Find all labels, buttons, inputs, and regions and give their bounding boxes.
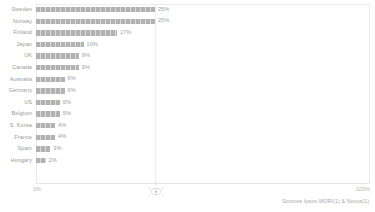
bar-fill	[36, 65, 79, 70]
bar-rows-container: Sweden25%Norway25%Finland17%Japan10%UK9%…	[0, 4, 375, 180]
bar-row-label: US	[0, 100, 36, 106]
bar-track: 10%	[36, 39, 155, 51]
bar-track: 4%	[36, 132, 155, 144]
bar-row-label: Spain	[0, 146, 36, 152]
bar-track: 17%	[36, 27, 155, 39]
bar-value-label: 2%	[46, 158, 57, 164]
bar-row: Hungary2%	[0, 155, 375, 167]
bar-track: 6%	[36, 85, 155, 97]
bar-row-label: France	[0, 135, 36, 141]
bar-value-label: 6%	[65, 88, 76, 94]
bar-row: Sweden25%	[0, 4, 375, 16]
bar-value-label: 9%	[79, 53, 90, 59]
bar-row: Japan10%	[0, 39, 375, 51]
bar-fill	[36, 135, 55, 140]
bar-fill	[36, 88, 65, 93]
bar-fill	[36, 158, 46, 163]
bar-value-label: 5%	[60, 100, 71, 106]
bar-row: UK9%	[0, 50, 375, 62]
bar-row: France4%	[0, 132, 375, 144]
bar-track: 25%	[36, 4, 155, 16]
bar-row: Finland17%	[0, 27, 375, 39]
bar-track: 5%	[36, 97, 155, 109]
bar-row-label: Germany	[0, 88, 36, 94]
bar-row-label: Japan	[0, 42, 36, 48]
bar-row-label: Canada	[0, 65, 36, 71]
bar-value-label: 25%	[155, 19, 169, 25]
bar-row: Australia6%	[0, 74, 375, 86]
bar-fill	[36, 146, 50, 151]
bar-fill	[36, 100, 60, 105]
bar-row: US5%	[0, 97, 375, 109]
bar-chart-widget: Sweden25%Norway25%Finland17%Japan10%UK9%…	[0, 0, 375, 212]
bar-row: Canada9%	[0, 62, 375, 74]
bar-track: 3%	[36, 143, 155, 155]
axis-tick-left: 0%	[33, 187, 41, 193]
bar-row-label: S. Korea	[0, 123, 36, 129]
bar-track: 5%	[36, 108, 155, 120]
bar-fill	[36, 19, 155, 24]
bar-value-label: 6%	[65, 77, 76, 83]
bar-value-label: 17%	[117, 30, 131, 36]
bar-row-label: Finland	[0, 30, 36, 36]
bar-fill	[36, 42, 84, 47]
bar-value-label: 9%	[79, 65, 90, 71]
bar-fill	[36, 7, 155, 12]
bar-track: 6%	[36, 74, 155, 86]
bar-row: Spain3%	[0, 143, 375, 155]
bar-row-label: Australia	[0, 77, 36, 83]
axis-tick-right: 100%	[356, 187, 370, 193]
bar-fill	[36, 123, 55, 128]
bar-row-label: UK	[0, 53, 36, 59]
bar-fill	[36, 53, 79, 58]
bar-fill	[36, 77, 65, 82]
bar-row: Germany6%	[0, 85, 375, 97]
bar-track: 4%	[36, 120, 155, 132]
bar-row-label: Belgium	[0, 111, 36, 117]
bar-track: 9%	[36, 62, 155, 74]
bar-track: 2%	[36, 155, 155, 167]
bar-value-label: 25%	[155, 7, 169, 13]
bar-value-label: 3%	[50, 146, 61, 152]
bar-value-label: 4%	[55, 123, 66, 129]
axis-slider-handle-icon[interactable]	[147, 182, 165, 196]
bar-fill	[36, 111, 60, 116]
bar-track: 25%	[36, 16, 155, 28]
bar-value-label: 10%	[84, 42, 98, 48]
bar-row-label: Norway	[0, 19, 36, 25]
bar-track: 9%	[36, 50, 155, 62]
bar-row: Belgium5%	[0, 108, 375, 120]
bar-row-label: Hungary	[0, 158, 36, 164]
source-note: Sources Ipsos-MORI(1) & Novus(1)	[282, 199, 369, 204]
bar-row-label: Sweden	[0, 7, 36, 13]
bar-value-label: 4%	[55, 135, 66, 141]
bar-row: Norway25%	[0, 16, 375, 28]
bar-row: S. Korea4%	[0, 120, 375, 132]
bar-fill	[36, 30, 117, 35]
bar-value-label: 5%	[60, 111, 71, 117]
